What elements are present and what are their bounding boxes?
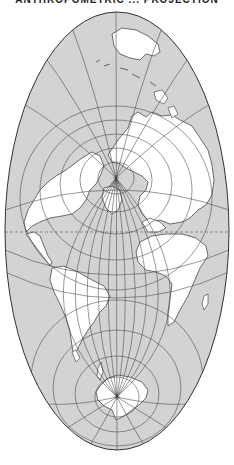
map-caption [0,458,234,465]
world-map [0,0,234,465]
